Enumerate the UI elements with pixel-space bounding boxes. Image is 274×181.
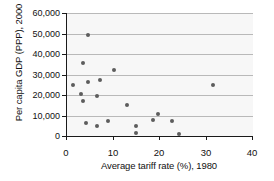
x-tick-label: 0 [63, 147, 68, 158]
x-tick-label-wrap: 40 [237, 142, 267, 160]
y-tick-label: 50,000 [14, 29, 60, 39]
x-tick-label-wrap: 30 [191, 142, 221, 160]
y-tick-label-wrap: 40,000 [0, 49, 60, 59]
data-point [134, 124, 138, 128]
y-tick-label: 20,000 [14, 90, 60, 100]
x-tick-label: 20 [154, 147, 165, 158]
y-axis-tick [62, 95, 66, 96]
y-axis-tick [62, 54, 66, 55]
data-point [170, 119, 174, 123]
data-point [86, 80, 90, 84]
y-tick-label: 0 [14, 131, 60, 141]
data-point [79, 92, 83, 96]
y-tick-label-wrap: 60,000 [0, 8, 60, 18]
y-tick-label: 40,000 [14, 49, 60, 59]
gridline-y-30000 [67, 75, 253, 76]
scatter-chart-figure: Per capita GDP (PPP), 2000 010,00020,000… [0, 0, 274, 181]
data-point [125, 103, 129, 107]
y-tick-label-wrap: 20,000 [0, 90, 60, 100]
x-tick-label: 10 [108, 147, 119, 158]
data-point [81, 61, 85, 65]
data-point [106, 119, 110, 123]
y-tick-label-wrap: 10,000 [0, 111, 60, 121]
x-axis-tick [206, 136, 207, 140]
y-axis-tick [62, 116, 66, 117]
data-point [177, 132, 181, 136]
data-point [112, 68, 116, 72]
y-tick-label: 30,000 [14, 70, 60, 80]
data-point [81, 99, 85, 103]
x-axis-tick [113, 136, 114, 140]
y-tick-label-wrap: 50,000 [0, 29, 60, 39]
data-point [98, 78, 102, 82]
gridline-y-40000 [67, 54, 253, 55]
plot-area [66, 13, 253, 137]
y-axis-tick [62, 75, 66, 76]
data-point [95, 94, 99, 98]
y-tick-label-wrap: 30,000 [0, 70, 60, 80]
x-axis-title: Average tariff rate (%), 1980 [64, 160, 254, 171]
data-point [134, 131, 138, 135]
data-point [211, 83, 215, 87]
gridline-y-50000 [67, 34, 253, 35]
x-tick-label: 40 [247, 147, 258, 158]
gridline-y-10000 [67, 116, 253, 117]
data-point [151, 118, 155, 122]
x-tick-label: 30 [201, 147, 212, 158]
x-axis-tick [252, 136, 253, 140]
y-tick-label: 60,000 [14, 8, 60, 18]
data-point [84, 121, 88, 125]
x-axis-tick [159, 136, 160, 140]
gridline-y-60000 [67, 13, 253, 14]
x-tick-label-wrap: 0 [51, 142, 81, 160]
data-point [95, 124, 99, 128]
y-tick-label-wrap: 0 [0, 131, 60, 141]
x-axis-tick [66, 136, 67, 140]
data-point [86, 33, 90, 37]
data-point [71, 83, 75, 87]
x-tick-label-wrap: 20 [144, 142, 174, 160]
x-tick-label-wrap: 10 [98, 142, 128, 160]
y-axis-tick [62, 13, 66, 14]
y-axis-tick [62, 34, 66, 35]
y-tick-label: 10,000 [14, 111, 60, 121]
